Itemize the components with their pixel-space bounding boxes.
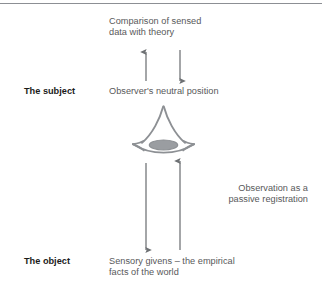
caption-comparison-of-sensed-data: Comparison of sensed data with theory xyxy=(109,16,239,39)
eye-pupil xyxy=(149,140,177,150)
row-text-sensory-givens: Sensory givens – the empirical facts of … xyxy=(109,256,279,279)
diagram-artwork xyxy=(0,0,322,299)
diagram-canvas: Comparison of sensed data with theory Th… xyxy=(0,0,322,299)
row-text-observers-neutral-position: Observer's neutral position xyxy=(109,86,259,97)
row-label-the-subject: The subject xyxy=(24,86,75,97)
row-label-the-object: The object xyxy=(24,256,70,267)
caption-observation-as-passive-registration: Observation as a passive registration xyxy=(196,183,308,206)
eye-icon xyxy=(133,107,194,153)
